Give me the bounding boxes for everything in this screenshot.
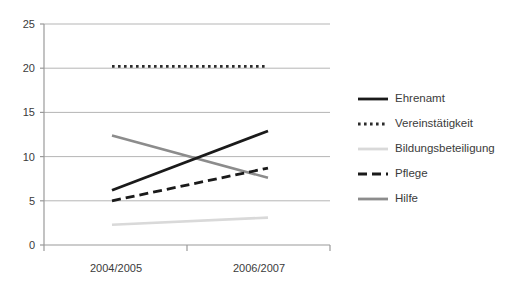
legend-label-hilfe: Hilfe [395,192,418,204]
legend-label-pflege: Pflege [395,167,428,179]
x-label-2006-2007: 2006/2007 [233,262,285,274]
y-label-25: 25 [23,18,35,30]
chart-container: 25 20 15 10 5 0 2004/2005 2006/2007 Ehre… [0,0,513,288]
line-chart: 25 20 15 10 5 0 2004/2005 2006/2007 Ehre… [0,0,513,288]
y-label-15: 15 [23,106,35,118]
y-label-0: 0 [29,239,35,251]
legend-label-bildungsbeteiligung: Bildungsbeteiligung [395,142,495,154]
legend-label-vereinstaetigkeit: Vereinstätigkeit [395,117,474,129]
y-label-20: 20 [23,62,35,74]
legend-label-ehrenamt: Ehrenamt [395,92,446,104]
x-label-2004-2005: 2004/2005 [90,262,142,274]
y-label-5: 5 [29,195,35,207]
y-label-10: 10 [23,151,35,163]
